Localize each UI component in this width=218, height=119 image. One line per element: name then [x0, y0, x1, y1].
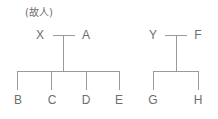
parent-x: X	[36, 29, 44, 41]
parent-y: Y	[149, 29, 157, 41]
child-c: C	[48, 94, 57, 106]
parent-a: A	[82, 29, 90, 41]
deceased-note: (故人)	[25, 7, 53, 19]
child-g: G	[148, 94, 157, 106]
child-d: D	[82, 94, 91, 106]
child-e: E	[115, 94, 123, 106]
parent-f: F	[194, 29, 201, 41]
family-tree-diagram: (故人) X A B C D E Y F G H	[0, 0, 218, 119]
child-b: B	[14, 94, 22, 106]
child-h: H	[194, 94, 203, 106]
